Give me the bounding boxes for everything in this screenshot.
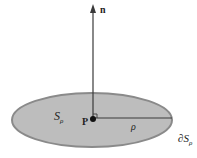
- arrowhead-icon: [90, 4, 96, 13]
- point-p-dot: [90, 116, 96, 122]
- radius-label: ρ: [130, 121, 136, 132]
- boundary-label: ∂Sρ: [178, 132, 193, 147]
- point-label: P: [82, 116, 88, 127]
- normal-label: n: [100, 4, 106, 15]
- diagram-canvas: n P Sρ ρ ∂Sρ: [0, 0, 197, 158]
